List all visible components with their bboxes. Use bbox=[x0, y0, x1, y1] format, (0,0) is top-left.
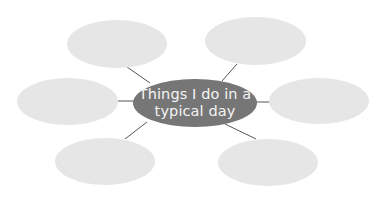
bubble-top-right bbox=[205, 17, 306, 65]
central-topic-label: Things I do in atypical day bbox=[139, 86, 252, 120]
bubble-middle-left bbox=[17, 78, 118, 125]
spider-diagram: Things I do in atypical day bbox=[0, 0, 389, 210]
bubble-bottom-left bbox=[55, 138, 155, 185]
connector-top-left bbox=[127, 67, 150, 83]
central-topic: Things I do in atypical day bbox=[133, 79, 257, 127]
central-topic-line1: Things I do in a bbox=[139, 86, 252, 102]
central-topic-line2: typical day bbox=[155, 103, 236, 119]
connector-bottom-left bbox=[125, 122, 147, 139]
bubble-middle-right bbox=[269, 78, 369, 124]
bubble-top-left bbox=[67, 20, 167, 68]
bubble-bottom-right bbox=[218, 139, 318, 186]
connector-top-right bbox=[222, 64, 237, 81]
connector-bottom-right bbox=[225, 124, 256, 139]
